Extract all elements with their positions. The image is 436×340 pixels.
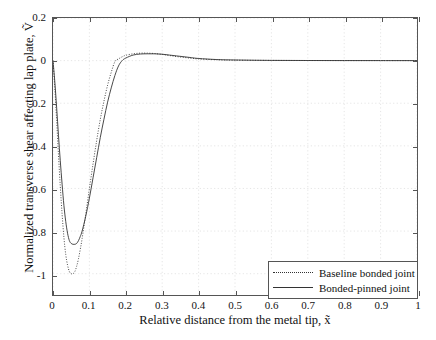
legend-item-bonded-pinned-joint: Bonded-pinned joint — [273, 280, 413, 295]
x-tick — [53, 291, 54, 296]
x-tick — [199, 17, 200, 22]
x-tick — [90, 291, 91, 296]
x-tick — [163, 291, 164, 296]
legend-item-baseline-bonded-joint: Baseline bonded joint — [273, 265, 413, 280]
y-tick — [413, 61, 418, 62]
x-tick — [90, 17, 91, 22]
legend: Baseline bonded joint Bonded-pinned join… — [268, 261, 418, 299]
y-tick — [52, 276, 57, 277]
x-axis-title: Relative distance from the metal tip, x̃ — [52, 313, 418, 328]
x-tick — [126, 291, 127, 296]
y-tick — [52, 18, 57, 19]
x-tick — [126, 17, 127, 22]
y-tick — [413, 147, 418, 148]
figure: Baseline bonded joint Bonded-pinned join… — [0, 0, 436, 340]
curve-bonded-pinned-joint — [53, 54, 417, 245]
x-tick — [273, 17, 274, 22]
curve-baseline-bonded-joint — [53, 53, 417, 274]
y-tick — [413, 233, 418, 234]
y-tick — [52, 233, 57, 234]
y-tick — [413, 104, 418, 105]
x-tick — [236, 17, 237, 22]
y-tick — [52, 190, 57, 191]
x-tick — [419, 291, 420, 296]
legend-label: Baseline bonded joint — [319, 267, 415, 279]
y-tick — [52, 61, 57, 62]
x-tick — [309, 17, 310, 22]
plot-area: Baseline bonded joint Bonded-pinned join… — [52, 17, 418, 296]
y-axis-title: Normalized transverse shear affecting la… — [22, 0, 37, 298]
y-tick — [413, 190, 418, 191]
x-tick — [419, 17, 420, 22]
x-tick — [346, 17, 347, 22]
legend-swatch-dotted — [273, 272, 313, 273]
y-tick — [52, 104, 57, 105]
x-tick — [199, 291, 200, 296]
x-tick — [163, 17, 164, 22]
legend-label: Bonded-pinned joint — [319, 282, 410, 294]
x-tick — [236, 291, 237, 296]
legend-swatch-solid — [273, 287, 313, 288]
data-curves — [53, 18, 417, 295]
y-tick — [413, 18, 418, 19]
x-tick — [382, 17, 383, 22]
x-tick-label: 1 — [396, 299, 436, 311]
y-tick — [52, 147, 57, 148]
